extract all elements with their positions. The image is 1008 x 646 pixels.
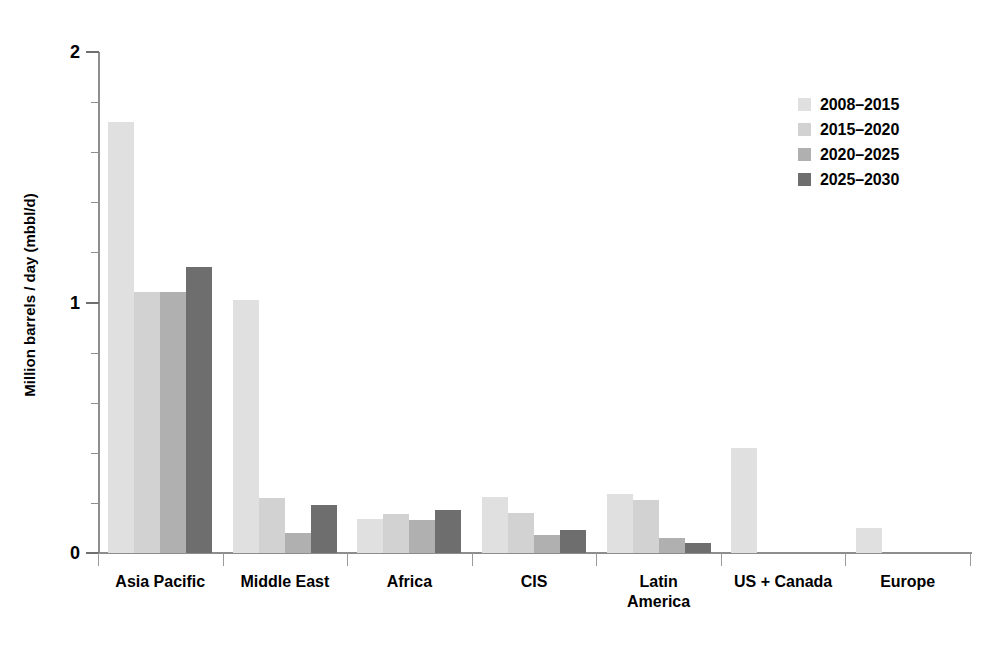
bar	[383, 514, 409, 553]
bar	[731, 448, 757, 553]
bar	[856, 528, 882, 553]
legend-swatch-icon	[798, 98, 811, 111]
legend-item[interactable]: 2008–2015	[798, 93, 988, 116]
bar	[134, 292, 160, 553]
legend-item[interactable]: 2015–2020	[798, 118, 988, 141]
x-axis-separator-tick	[472, 553, 473, 566]
legend-item[interactable]: 2025–2030	[798, 168, 988, 191]
bar	[534, 535, 560, 553]
legend-label: 2020–2025	[820, 146, 899, 164]
legend-swatch-icon	[798, 173, 811, 186]
legend-label: 2015–2020	[820, 121, 899, 139]
bar	[186, 267, 212, 553]
x-axis-separator-tick	[347, 553, 348, 566]
legend-label: 2025–2030	[820, 171, 899, 189]
x-axis-separator-tick	[223, 553, 224, 566]
bar-group	[108, 52, 212, 553]
y-axis-title-text: Million barrels / day (mbbl/d)	[21, 193, 38, 396]
bar-group	[482, 52, 586, 553]
bar	[560, 530, 586, 553]
bar	[259, 498, 285, 553]
y-tick-label: 0	[56, 544, 80, 562]
bar	[285, 533, 311, 553]
bar	[685, 543, 711, 553]
bar	[311, 505, 337, 553]
bar	[659, 538, 685, 553]
x-axis-separator-tick	[721, 553, 722, 566]
bar	[160, 292, 186, 553]
y-tick-label: 1	[56, 294, 80, 312]
x-axis-separator-tick	[98, 553, 99, 566]
legend-label: 2008–2015	[820, 96, 899, 114]
bar-group	[233, 52, 337, 553]
legend-swatch-icon	[798, 148, 811, 161]
legend-swatch-icon	[798, 123, 811, 136]
x-axis-separator-tick	[596, 553, 597, 566]
bar-chart: Million barrels / day (mbbl/d) 012 Asia …	[0, 0, 1008, 646]
y-tick-label: 2	[56, 43, 80, 61]
bar	[357, 519, 383, 553]
legend-item[interactable]: 2020–2025	[798, 143, 988, 166]
bar	[435, 510, 461, 553]
y-axis-title: Million barrels / day (mbbl/d)	[14, 70, 44, 520]
bar	[409, 520, 435, 553]
x-axis-separator-tick	[970, 553, 971, 566]
bar	[233, 300, 259, 553]
bar	[108, 122, 134, 553]
category-label-line: Europe	[828, 572, 988, 592]
bar	[482, 497, 508, 553]
bar-group	[607, 52, 711, 553]
category-label: Europe	[828, 572, 988, 592]
bar	[633, 500, 659, 553]
bar	[508, 513, 534, 553]
bar	[607, 494, 633, 553]
bar-group	[357, 52, 461, 553]
x-axis-separator-tick	[845, 553, 846, 566]
legend: 2008–20152015–20202020–20252025–2030	[798, 93, 988, 193]
category-label-line: America	[579, 592, 739, 612]
